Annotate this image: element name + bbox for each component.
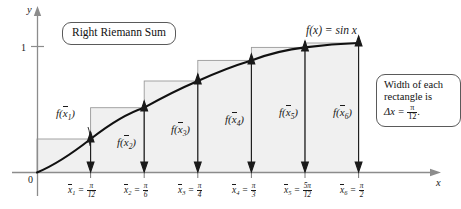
x-tick-label-2: x2 = π 6 [124, 182, 148, 198]
title-callout: Right Riemann Sum [62, 22, 176, 45]
height-label-6: f(x6) [333, 106, 352, 121]
delta-x-fraction: π 12 [407, 104, 417, 122]
height-label-2: f(x2) [117, 136, 136, 151]
x-tick-fraction: π 2 [359, 182, 365, 198]
x-tick-fraction: π 12 [87, 182, 96, 198]
x-tick-label-6: x6 = π 2 [340, 182, 364, 198]
y-tick-label-one: 1 [21, 42, 26, 53]
y-axis-label: y [27, 4, 32, 15]
width-callout-line1: Width of each [384, 79, 454, 91]
height-label-3: f(x3) [171, 123, 190, 138]
height-label-1: f(x1) [56, 107, 75, 122]
function-label: f(x) = sin x [306, 24, 357, 36]
title-callout-text: Right Riemann Sum [72, 26, 166, 38]
origin-label: 0 [28, 174, 33, 185]
width-callout-delta: Δx = π 12 . [384, 104, 454, 122]
height-label-5: f(x5) [279, 106, 298, 121]
width-callout-line2: rectangle is [384, 91, 454, 103]
x-tick-fraction: 5π 12 [303, 182, 312, 198]
y-axis-arrowhead [34, 6, 41, 16]
x-tick-fraction: π 4 [197, 182, 203, 198]
height-label-4: f(x4) [225, 113, 244, 128]
x-axis-arrowhead [430, 169, 441, 176]
x-tick-label-1: x1 = π 12 [68, 182, 96, 198]
x-tick-label-4: x4 = π 3 [232, 182, 256, 198]
x-tick-label-5: x5 = 5π 12 [284, 182, 312, 198]
x-axis-label: x [436, 177, 441, 188]
x-tick-fraction: π 6 [143, 182, 149, 198]
x-tick-label-3: x3 = π 4 [178, 182, 202, 198]
width-callout: Width of each rectangle is Δx = π 12 . [376, 74, 461, 127]
x-tick-fraction: π 3 [251, 182, 257, 198]
